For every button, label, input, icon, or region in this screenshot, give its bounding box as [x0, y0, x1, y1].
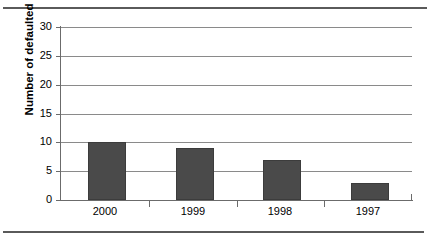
gridline	[61, 114, 412, 115]
x-axis-tick-mark	[149, 201, 150, 207]
y-axis-title: Number of defaulted issues	[19, 0, 39, 125]
bar	[263, 160, 301, 200]
x-axis-tick-mark	[237, 201, 238, 207]
y-axis-tick-mark	[56, 85, 61, 86]
bar-chart-figure: Number of defaulted issues 051015202530 …	[0, 0, 430, 241]
y-axis-tick-label: 20	[30, 79, 52, 90]
y-axis-tick-label: 30	[30, 21, 52, 32]
bar	[351, 183, 389, 200]
y-axis-tick-label: 0	[30, 194, 52, 205]
y-axis-tick-mark	[56, 200, 61, 201]
y-axis-tick-mark	[56, 114, 61, 115]
y-axis-tick-mark	[56, 27, 61, 28]
gridline	[61, 85, 412, 86]
bottom-divider-rule	[3, 231, 424, 233]
y-axis-tick-label: 10	[30, 136, 52, 147]
top-divider-rule	[3, 7, 427, 9]
y-axis-tick-mark	[56, 142, 61, 143]
y-axis-tick-label: 15	[30, 108, 52, 119]
x-axis-tick-label: 1998	[250, 205, 310, 218]
gridline	[61, 27, 412, 28]
y-axis-tick-label: 5	[30, 165, 52, 176]
x-axis-tick-mark	[324, 201, 325, 207]
y-axis-tick-mark	[56, 56, 61, 57]
x-axis-tick-label: 1997	[338, 205, 398, 218]
bar	[176, 148, 214, 200]
x-axis-tick-label: 1999	[163, 205, 223, 218]
x-axis-tick-label: 2000	[75, 205, 135, 218]
y-axis-tick-label: 25	[30, 50, 52, 61]
y-axis-tick-mark	[56, 171, 61, 172]
plot-area: 051015202530	[61, 27, 412, 200]
bar	[88, 142, 126, 200]
gridline	[61, 56, 412, 57]
